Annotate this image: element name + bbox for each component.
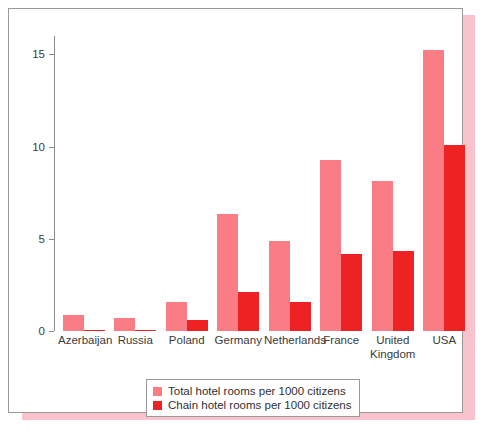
bars-layer [54, 36, 466, 331]
x-label-poland: Poland [161, 334, 213, 348]
bar-chain [290, 302, 311, 332]
chart-frame: 051015 AzerbaijanRussiaPolandGermanyNeth… [8, 8, 463, 413]
y-tick-label: 5 [39, 233, 45, 245]
plot-area: 051015 [54, 36, 466, 331]
y-tick-label: 0 [39, 325, 45, 337]
bar-chain [341, 254, 362, 331]
bar-total [114, 318, 135, 331]
bar-chain [84, 330, 105, 331]
bar-chain [238, 292, 259, 331]
legend-item-total: Total hotel rooms per 1000 citizens [153, 384, 351, 398]
bar-total [166, 302, 187, 331]
legend-label-total: Total hotel rooms per 1000 citizens [168, 385, 346, 397]
x-label-netherlands: Netherlands [264, 334, 316, 348]
legend-swatch-chain-icon [153, 401, 162, 410]
bar-total [63, 315, 84, 331]
bar-chain [444, 145, 465, 331]
x-label-france: France [316, 334, 368, 348]
bar-total [320, 160, 341, 331]
bar-total [269, 241, 290, 331]
x-axis-category-labels: AzerbaijanRussiaPolandGermanyNetherlands… [54, 334, 466, 374]
y-tick-mark [49, 331, 54, 332]
y-tick-label: 10 [32, 141, 45, 153]
x-label-germany: Germany [213, 334, 265, 348]
bar-chain [135, 330, 156, 331]
legend-label-chain: Chain hotel rooms per 1000 citizens [168, 399, 351, 411]
x-label-usa: USA [419, 334, 471, 348]
bar-total [423, 50, 444, 331]
bar-chart: 051015 AzerbaijanRussiaPolandGermanyNeth… [0, 0, 483, 435]
x-label-azerbaijan: Azerbaijan [58, 334, 110, 348]
chart-legend: Total hotel rooms per 1000 citizens Chai… [146, 379, 360, 417]
bar-total [217, 214, 238, 331]
bar-total [372, 181, 393, 331]
y-tick-label: 15 [32, 48, 45, 60]
legend-item-chain: Chain hotel rooms per 1000 citizens [153, 398, 351, 412]
bar-chain [187, 320, 208, 331]
bar-chain [393, 251, 414, 331]
x-label-united-kingdom: United Kingdom [367, 334, 419, 361]
x-label-russia: Russia [110, 334, 162, 348]
legend-swatch-total-icon [153, 387, 162, 396]
